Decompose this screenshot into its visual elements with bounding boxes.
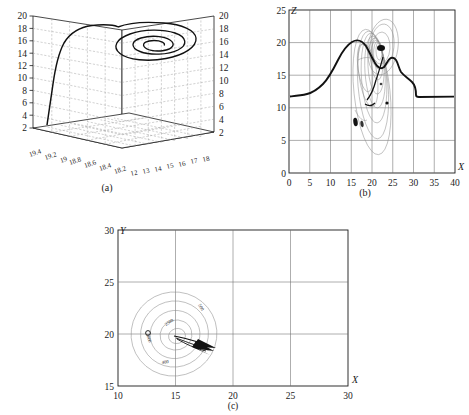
panel-a-caption: (a): [0, 182, 214, 193]
tick-label: 25: [286, 391, 296, 401]
tick-label: 30: [343, 391, 353, 401]
panel-c-x-axis-label: X: [351, 374, 359, 385]
tick-label: 20: [219, 11, 229, 21]
panel-c-y-ticks: 30 25 20 15: [105, 226, 115, 392]
panel-a-left-axis-ticks: [30, 16, 34, 128]
tick-label: 18.6: [83, 158, 98, 170]
panel-c-x-ticks: 10 15 20 25 30: [113, 391, 353, 401]
panel-b-plot: 25 20 15 10 5 0 Z 0 5 10 15 20 25 30 35 …: [255, 0, 469, 205]
tick-label: 16: [178, 160, 187, 169]
tick-label: 2: [22, 123, 27, 133]
tick-label: 14: [219, 50, 229, 60]
panel-a: 20 18 16 14 12 10 8 6 4 2 20 18 16 14 12…: [0, 0, 246, 205]
panel-a-plot: 20 18 16 14 12 10 8 6 4 2 20 18 16 14 12…: [0, 0, 246, 205]
tick-label: 12: [130, 169, 139, 178]
tick-label: 5: [281, 136, 286, 146]
panel-b-caption: (b): [275, 187, 455, 198]
tick-label: 15: [166, 162, 175, 171]
tick-label: 16: [219, 37, 229, 47]
tick-label: 14: [154, 165, 163, 174]
tick-label: 6: [219, 102, 224, 112]
tick-label: 10: [18, 73, 28, 83]
tick-label: 18: [202, 155, 211, 164]
panel-b-y-axis-label: Z: [291, 5, 297, 16]
tick-label: 18.4: [98, 161, 113, 173]
tick-label: 18.8: [68, 155, 83, 167]
tick-label: 18: [219, 24, 229, 34]
tick-label: 20: [18, 11, 28, 21]
panel-a-x-ticks: 19.4 19.2 19 18.8 18.6 18.4 18.2: [28, 147, 128, 176]
tick-label: 15: [105, 382, 115, 392]
tick-label: 25: [105, 278, 115, 288]
tick-label: 17: [190, 157, 199, 166]
panel-c-caption: (c): [228, 401, 239, 412]
panel-a-y-ticks: 12 13 14 15 16 17 18: [130, 155, 211, 178]
tick-label: 2: [219, 128, 224, 138]
tick-label: 13: [142, 167, 151, 176]
tick-label: 12: [18, 61, 28, 71]
tick-label: 19.2: [44, 150, 59, 162]
contour-label: 500: [197, 303, 205, 312]
tick-label: 4: [22, 111, 27, 121]
panel-c-gridlines: [118, 230, 348, 386]
tick-label: 20: [228, 391, 238, 401]
panel-a-z-ticks-right: 20 18 16 14 12 10 8 6 4 2: [219, 11, 229, 137]
tick-label: 20: [105, 330, 115, 340]
tick-label: 19.4: [28, 147, 43, 159]
contour-label: 400: [161, 359, 169, 365]
tick-label: 10: [219, 76, 229, 86]
tick-label: 18.2: [113, 164, 128, 176]
panel-b-y-ticks: 25 20 15 10 5 0: [277, 6, 287, 179]
tick-label: 18: [18, 24, 28, 34]
panel-c-plot: 500 2500 1000 400 30 25 20 15 Y 10 15 20…: [80, 208, 410, 415]
tick-label: 16: [18, 36, 28, 46]
contour-label: 2500: [164, 317, 175, 327]
panel-a-z-ticks-left: 20 18 16 14 12 10 8 6 4 2: [18, 11, 28, 133]
panel-b: 25 20 15 10 5 0 Z 0 5 10 15 20 25 30 35 …: [255, 0, 469, 205]
tick-label: 8: [22, 86, 27, 96]
panel-a-3d-box: [33, 16, 214, 148]
tick-label: 8: [219, 89, 224, 99]
panel-c-y-axis-label: Y: [120, 225, 127, 236]
tick-label: 15: [171, 391, 181, 401]
tick-label: 20: [277, 38, 287, 48]
tick-label: 30: [105, 226, 115, 236]
tick-label: 10: [113, 391, 123, 401]
tick-label: 25: [277, 6, 287, 16]
panel-c: 500 2500 1000 400 30 25 20 15 Y 10 15 20…: [80, 208, 410, 415]
tick-label: 4: [219, 115, 224, 125]
panel-b-x-axis-label: X: [457, 161, 465, 172]
tick-label: 6: [22, 98, 27, 108]
tick-label: 0: [281, 169, 286, 179]
tick-label: 15: [277, 71, 287, 81]
tick-label: 14: [18, 49, 28, 59]
tick-label: 10: [277, 103, 287, 113]
tick-label: 12: [219, 63, 229, 73]
